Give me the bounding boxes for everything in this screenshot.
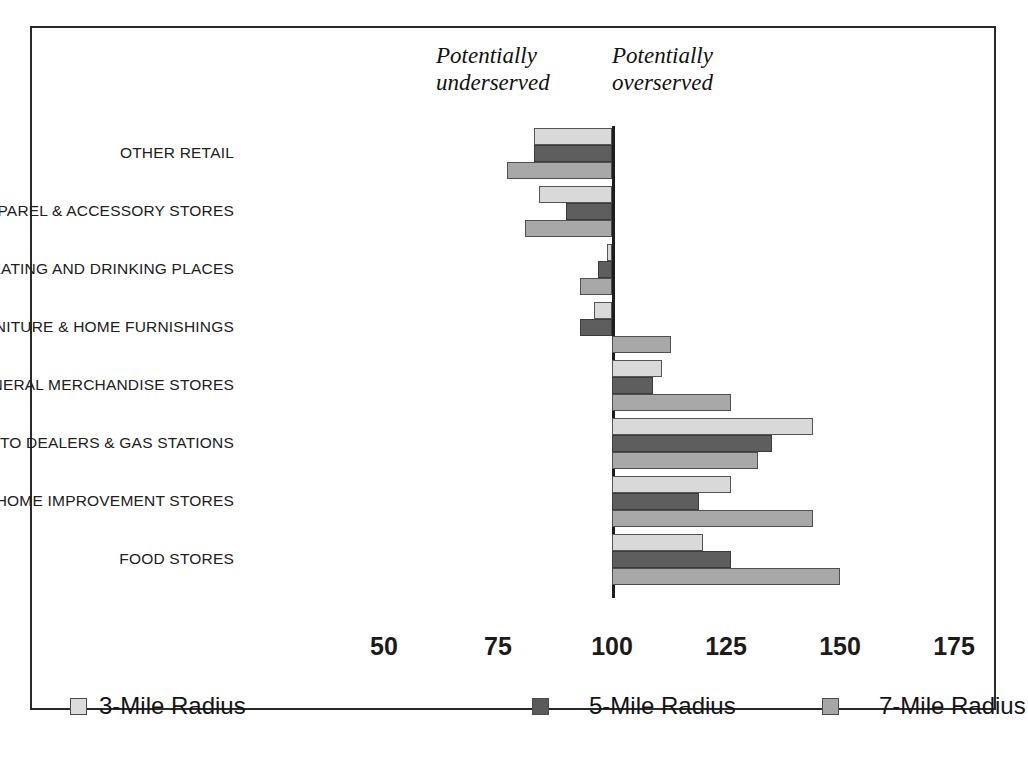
x-tick-label: 75 <box>484 632 512 661</box>
bar-2 <box>612 493 699 510</box>
legend-swatch-7-mile-icon <box>822 698 839 715</box>
bar-group: FOOD STORES <box>32 534 994 592</box>
bar-1 <box>612 360 662 377</box>
bar-3 <box>507 162 612 179</box>
bar-1 <box>534 128 612 145</box>
chart-frame: Potentially underserved Potentially over… <box>30 26 996 710</box>
bar-group: AUTO DEALERS & GAS STATIONS <box>32 418 994 476</box>
category-label: EATING AND DRINKING PLACES <box>0 260 234 278</box>
bar-2 <box>612 551 731 568</box>
bar-2 <box>612 377 653 394</box>
bar-1 <box>612 476 731 493</box>
category-label: AUTO DEALERS & GAS STATIONS <box>0 434 234 452</box>
x-tick-label: 50 <box>370 632 398 661</box>
bar-3 <box>612 510 813 527</box>
bar-3 <box>612 394 731 411</box>
legend-swatch-3-mile-icon <box>70 698 87 715</box>
x-tick-label: 100 <box>591 632 633 661</box>
bar-3 <box>580 278 612 295</box>
legend-label: 5-Mile Radius <box>589 692 736 720</box>
category-label: FOOD STORES <box>0 550 234 568</box>
category-label: GENERAL MERCHANDISE STORES <box>0 376 234 394</box>
bar-1 <box>612 418 813 435</box>
bar-3 <box>612 452 758 469</box>
legend-item-1[interactable]: 3-Mile Radius <box>70 692 246 720</box>
bar-group: OTHER RETAIL <box>32 128 994 186</box>
bar-2 <box>612 435 772 452</box>
category-label: FURNITURE & HOME FURNISHINGS <box>0 318 234 336</box>
x-axis: 5075100125150175 <box>32 632 994 672</box>
bar-3 <box>612 336 671 353</box>
x-tick-label: 175 <box>933 632 975 661</box>
bar-group: FURNITURE & HOME FURNISHINGS <box>32 302 994 360</box>
bar-group: EATING AND DRINKING PLACES <box>32 244 994 302</box>
bar-1 <box>612 534 703 551</box>
plot-area: OTHER RETAILAPPAREL & ACCESSORY STORESEA… <box>32 120 994 600</box>
chart-legend: 3-Mile Radius5-Mile Radius7-Mile Radius <box>32 692 994 738</box>
category-label: OTHER RETAIL <box>0 144 234 162</box>
bar-2 <box>598 261 612 278</box>
bar-1 <box>594 302 612 319</box>
category-label: HOME IMPROVEMENT STORES <box>0 492 234 510</box>
legend-label: 7-Mile Radius <box>879 692 1026 720</box>
legend-item-2[interactable]: 5-Mile Radius <box>532 692 736 720</box>
bar-3 <box>612 568 840 585</box>
legend-swatch-5-mile-icon <box>532 698 549 715</box>
bar-1 <box>607 244 612 261</box>
legend-label: 3-Mile Radius <box>99 692 246 720</box>
bar-group: APPAREL & ACCESSORY STORES <box>32 186 994 244</box>
legend-item-3[interactable]: 7-Mile Radius <box>822 692 1026 720</box>
bar-1 <box>539 186 612 203</box>
annotation-potentially-underserved: Potentially underserved <box>436 42 550 96</box>
bar-2 <box>566 203 612 220</box>
bar-3 <box>525 220 612 237</box>
category-label: APPAREL & ACCESSORY STORES <box>0 202 234 220</box>
bar-group: HOME IMPROVEMENT STORES <box>32 476 994 534</box>
bar-2 <box>534 145 612 162</box>
bar-group: GENERAL MERCHANDISE STORES <box>32 360 994 418</box>
bar-2 <box>580 319 612 336</box>
annotation-potentially-overserved: Potentially overserved <box>612 42 713 96</box>
x-tick-label: 150 <box>819 632 861 661</box>
x-tick-label: 125 <box>705 632 747 661</box>
